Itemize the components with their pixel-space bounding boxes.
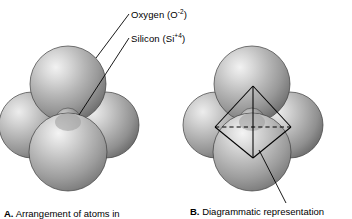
panel-a-letter: A.: [4, 208, 14, 219]
panel-a-caption: A. Arrangement of atoms in: [4, 208, 120, 219]
oxygen-label: Oxygen (O-2): [131, 9, 187, 20]
silicon-label-paren-open: (Si: [162, 33, 174, 44]
silicon-shadow-b: [239, 113, 265, 131]
oxygen-label-paren-open: (O: [167, 9, 178, 20]
panel-b-caption: B. Diagrammatic representation: [190, 206, 324, 217]
silicon-shadow: [55, 113, 81, 131]
silicon-label-paren-close: ): [182, 33, 185, 44]
silicon-label-name: Silicon: [131, 33, 160, 44]
panel-a-caption-text: Arrangement of atoms in: [16, 208, 120, 219]
oxygen-label-name: Oxygen: [131, 9, 164, 20]
silicon-label-charge: +4: [174, 32, 182, 39]
panel-b-caption-text: Diagrammatic representation: [202, 206, 324, 217]
oxygen-label-paren-close: ): [184, 9, 187, 20]
oxygen-leader-line: [96, 14, 129, 58]
panel-a-molecule: [0, 46, 139, 191]
silicon-label: Silicon (Si+4): [131, 33, 185, 44]
panel-b-letter: B.: [190, 206, 200, 217]
